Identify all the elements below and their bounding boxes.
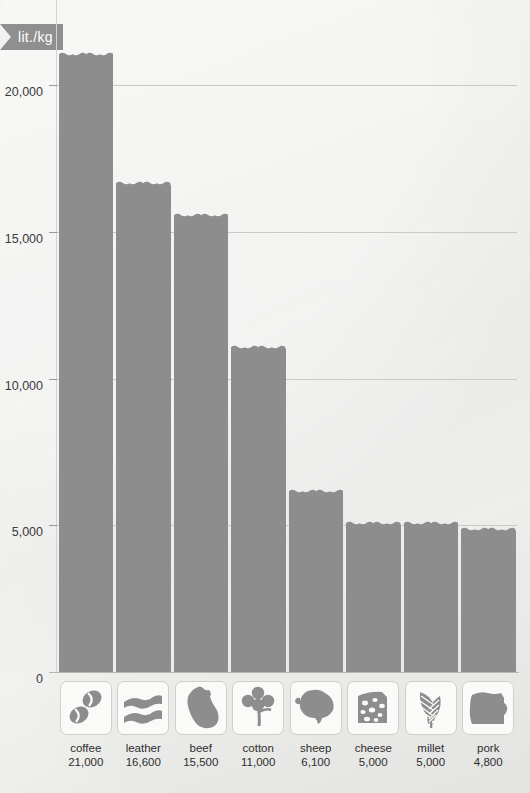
bar-cheese[interactable] — [346, 525, 401, 672]
icon-glyph — [463, 682, 513, 734]
millet-stalks-icon — [405, 681, 457, 735]
x-axis-baseline — [49, 672, 519, 673]
category-value-label: 15,500 — [172, 755, 230, 770]
bar-sheep[interactable] — [289, 493, 344, 672]
leather-hide-icon — [117, 681, 169, 735]
category-value-label: 16,600 — [115, 755, 173, 770]
category-label: pork — [460, 741, 518, 755]
coffee-beans-icon — [60, 681, 112, 735]
category-value-label: 5,000 — [402, 755, 460, 770]
category-value-label: 11,000 — [230, 755, 288, 770]
bar-wave-top — [174, 212, 229, 218]
y-axis-tick — [49, 525, 57, 526]
bar-wave-path — [116, 182, 171, 186]
y-axis-tick — [49, 232, 57, 233]
legend-cell-pork[interactable]: pork4,800 — [460, 681, 518, 770]
icon-glyph — [406, 682, 456, 734]
bar-wave-path — [231, 346, 286, 350]
y-axis-tick-label-text: 20,000 — [5, 85, 43, 99]
category-value-label: 6,100 — [287, 755, 345, 770]
unit-banner-label: lit./kg — [18, 29, 53, 45]
category-legend-row: coffee21,000leather16,600beef15,500cotto… — [57, 681, 517, 789]
bar-wave-top — [346, 520, 401, 526]
bar-wave-top — [59, 51, 114, 57]
legend-cell-cheese[interactable]: cheese5,000 — [345, 681, 403, 770]
y-axis-tick-label-text: 5,000 — [12, 525, 43, 539]
y-axis-tick-label-text: 10,000 — [5, 379, 43, 393]
y-axis-tick-label-text: 0 — [36, 672, 43, 686]
cheese-wedge-icon — [347, 681, 399, 735]
category-label: coffee — [57, 741, 115, 755]
category-label: beef — [172, 741, 230, 755]
icon-glyph — [291, 682, 341, 734]
bar-wave-path — [461, 528, 516, 532]
legend-cell-leather[interactable]: leather16,600 — [115, 681, 173, 770]
category-value-label: 5,000 — [345, 755, 403, 770]
pork-cut-icon — [462, 681, 514, 735]
bar-wave-top — [289, 488, 344, 494]
beef-cut-icon — [175, 681, 227, 735]
bar-wave-path — [404, 522, 459, 526]
y-axis-tick — [49, 379, 57, 380]
bar-leather[interactable] — [116, 185, 171, 672]
bar-wave-top — [404, 520, 459, 526]
icon-glyph — [118, 682, 168, 734]
y-axis-tick-label-text: 15,000 — [5, 232, 43, 246]
legend-cell-millet[interactable]: millet5,000 — [402, 681, 460, 770]
legend-cell-beef[interactable]: beef15,500 — [172, 681, 230, 770]
category-label: cheese — [345, 741, 403, 755]
bar-wave-path — [346, 522, 401, 526]
bar-wave-path — [174, 214, 229, 218]
unit-banner: lit./kg — [0, 24, 63, 50]
gridline-20000 — [57, 85, 517, 86]
chart-page: lit./kg 05,00010,00015,00020,000 coffee2… — [0, 0, 530, 793]
legend-cell-cotton[interactable]: cotton11,000 — [230, 681, 288, 770]
icon-glyph — [233, 682, 283, 734]
bar-wave-top — [116, 180, 171, 186]
cotton-flower-icon — [232, 681, 284, 735]
category-label: cotton — [230, 741, 288, 755]
bar-wave-top — [461, 526, 516, 532]
bar-pork[interactable] — [461, 531, 516, 672]
category-label: millet — [402, 741, 460, 755]
y-axis-line — [56, 0, 57, 672]
icon-glyph — [176, 682, 226, 734]
bar-beef[interactable] — [174, 217, 229, 672]
category-value-label: 4,800 — [460, 755, 518, 770]
bar-coffee[interactable] — [59, 56, 114, 672]
sheep-icon — [290, 681, 342, 735]
bar-millet[interactable] — [404, 525, 459, 672]
bar-wave-path — [289, 490, 344, 494]
plot-area: 05,00010,00015,00020,000 — [57, 50, 517, 672]
icon-glyph — [61, 682, 111, 734]
legend-cell-coffee[interactable]: coffee21,000 — [57, 681, 115, 770]
icon-glyph — [348, 682, 398, 734]
bar-wave-top — [231, 344, 286, 350]
y-axis-tick — [49, 85, 57, 86]
category-label: leather — [115, 741, 173, 755]
category-label: sheep — [287, 741, 345, 755]
bar-wave-path — [59, 53, 114, 57]
category-value-label: 21,000 — [57, 755, 115, 770]
legend-cell-sheep[interactable]: sheep6,100 — [287, 681, 345, 770]
bar-cotton[interactable] — [231, 349, 286, 672]
